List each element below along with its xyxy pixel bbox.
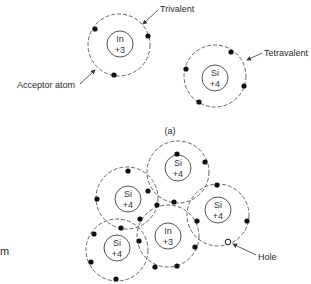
- semiconductor-doping-diagram: In +3 Si +4 Trivalent Tetravalent Accept…: [0, 0, 311, 284]
- acceptor-arrow: [80, 70, 95, 84]
- electron-dot: [228, 49, 233, 54]
- tetravalent-arrow: [247, 53, 262, 60]
- lattice-atom-si-right: Si +4: [187, 184, 249, 246]
- hole-marker: [225, 239, 231, 245]
- atom-charge: +4: [213, 211, 223, 221]
- cropped-text-fragment: m: [0, 245, 9, 257]
- lattice-atom-si-top-left: Si +4: [96, 167, 158, 229]
- tetravalent-atom-silicon: Si +4: [183, 45, 246, 107]
- atom-symbol: Si: [211, 68, 219, 78]
- atom-charge: +4: [173, 169, 183, 179]
- trivalent-label: Trivalent: [160, 4, 195, 14]
- atom-symbol: Si: [214, 200, 222, 210]
- tetravalent-label: Tetravalent: [264, 48, 309, 58]
- electron-dot: [183, 66, 188, 71]
- electron-dot: [241, 83, 246, 88]
- atom-charge: +3: [163, 237, 173, 247]
- atom-symbol: In: [164, 226, 172, 236]
- atom-charge: +4: [112, 249, 122, 259]
- atom-charge: +3: [115, 45, 125, 55]
- hole-label: Hole: [258, 252, 277, 262]
- atom-symbol: Si: [113, 238, 121, 248]
- atom-symbol: Si: [174, 158, 182, 168]
- electron-dot: [92, 26, 97, 31]
- caption-a: (a): [165, 126, 176, 136]
- acceptor-atom-label: Acceptor atom: [17, 80, 75, 90]
- trivalent-atom-indium: In +3: [88, 14, 151, 78]
- lattice-atom-si-bottom-left: Si +4: [86, 219, 148, 281]
- lattice-atom-in-center: In +3: [137, 205, 199, 267]
- electron-dot: [145, 33, 150, 38]
- atom-symbol: Si: [124, 189, 132, 199]
- atom-charge: +4: [123, 200, 133, 210]
- lattice-atom-si-top-middle: Si +4: [147, 141, 209, 203]
- atom-charge: +4: [210, 79, 220, 89]
- trivalent-arrow: [143, 10, 158, 24]
- hole-arrow: [233, 244, 256, 255]
- atom-symbol: In: [116, 34, 124, 44]
- electron-dot: [111, 72, 116, 77]
- electron-dot: [196, 99, 201, 104]
